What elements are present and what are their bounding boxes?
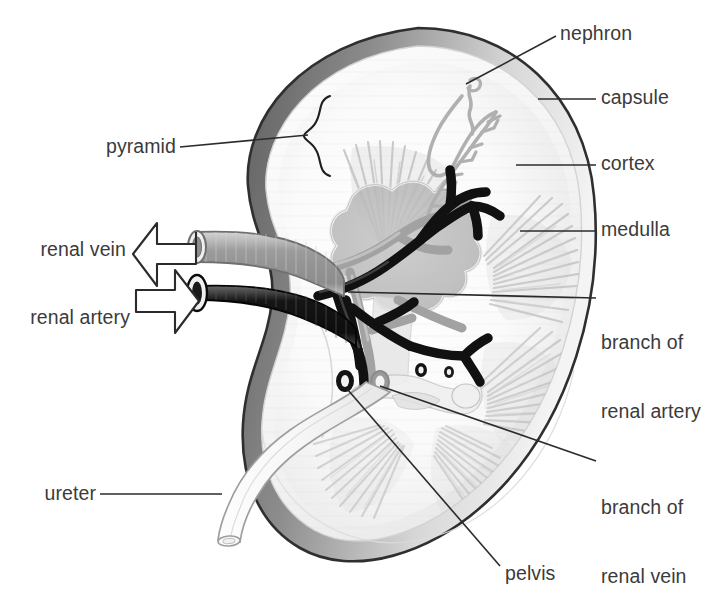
label-renal-vein: renal vein xyxy=(0,238,126,261)
label-renal-artery: renal artery xyxy=(0,306,130,329)
label-branch-of-renal-artery: branch of renal artery xyxy=(601,285,701,446)
renal-vein-arrow xyxy=(133,223,196,286)
label-nephron: nephron xyxy=(560,22,632,45)
kidney-diagram: nephron capsule cortex medulla branch of… xyxy=(0,0,711,602)
label-branch-of-renal-artery-line1: branch of xyxy=(601,331,701,354)
label-ureter: ureter xyxy=(0,482,96,505)
label-cortex: cortex xyxy=(601,152,655,175)
label-branch-of-renal-vein-line1: branch of xyxy=(601,496,687,519)
label-branch-of-renal-artery-line2: renal artery xyxy=(601,400,701,423)
label-branch-of-renal-vein-line2: renal vein xyxy=(601,565,687,588)
label-pyramid: pyramid xyxy=(0,135,176,158)
label-pelvis: pelvis xyxy=(505,562,555,585)
label-medulla: medulla xyxy=(601,218,670,241)
label-capsule: capsule xyxy=(601,86,669,109)
label-branch-of-renal-vein: branch of renal vein xyxy=(601,450,687,602)
